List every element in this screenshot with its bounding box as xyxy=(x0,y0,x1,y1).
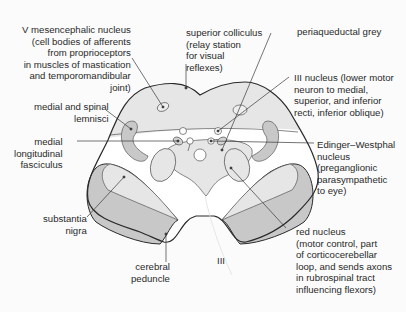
label-medial-spinal-lemnisci: medial and spinal lemnisci xyxy=(34,101,109,124)
label-periaqueductal-grey: periaqueductal grey xyxy=(297,26,381,38)
label-edinger-westphal-nucleus: Edinger–Westphal nucleus (preganglionic … xyxy=(317,139,395,197)
label-red-nucleus: red nucleus (motor control, part of cort… xyxy=(296,226,392,296)
label-iii-nucleus: III nucleus (lower motor neuron to media… xyxy=(294,72,394,118)
midbrain-diagram: V mesencephalic nucleus (cell bodies of … xyxy=(0,0,406,312)
label-substantia-nigra: substantia nigra xyxy=(43,213,87,236)
label-medial-longitudinal-fasciculus: medial longitudinal fasciculus xyxy=(14,136,63,171)
label-cerebral-peduncle: cerebral peduncle xyxy=(131,261,170,284)
label-oculomotor-nerve: III xyxy=(217,255,225,267)
label-v-mesencephalic-nucleus: V mesencephalic nucleus (cell bodies of … xyxy=(22,24,131,94)
iii-nucleus-left xyxy=(180,128,187,135)
label-superior-colliculus: superior colliculus (relay station for v… xyxy=(186,27,262,73)
edinger-westphal-nucleus xyxy=(187,138,193,144)
cerebral-aqueduct xyxy=(194,149,206,161)
